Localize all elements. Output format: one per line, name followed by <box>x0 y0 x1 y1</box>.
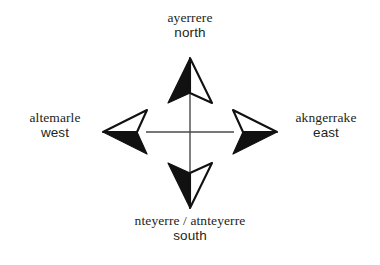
direction-label-west: altemarle west <box>6 110 104 140</box>
direction-label-north-gloss: north <box>0 25 380 40</box>
direction-label-west-language: altemarle <box>6 110 104 125</box>
direction-label-east: akngerrake east <box>276 110 376 140</box>
compass-arrow-west-solid-half <box>103 132 147 154</box>
direction-label-south: nteyerre / atnteyerre south <box>0 213 380 243</box>
compass-arrow-east-icon <box>233 110 277 154</box>
direction-label-west-gloss: west <box>6 125 104 140</box>
direction-label-north-language: ayerrere <box>0 10 380 25</box>
compass-arrow-north-solid-half <box>168 58 190 103</box>
compass-rose-figure: ayerrere north altemarle west akngerrake… <box>0 0 380 265</box>
compass-arrow-south-outline-half <box>190 163 212 208</box>
direction-label-north: ayerrere north <box>0 10 380 40</box>
direction-label-east-gloss: east <box>276 125 376 140</box>
compass-arrow-west-outline-half <box>103 110 147 132</box>
compass-arrow-south-solid-half <box>168 163 190 208</box>
direction-label-south-gloss: south <box>0 228 380 243</box>
crosshair-axes <box>146 88 234 176</box>
compass-arrow-east-solid-half <box>233 132 277 154</box>
compass-arrow-east-outline-half <box>233 110 277 132</box>
direction-label-south-language: nteyerre / atnteyerre <box>0 213 380 228</box>
compass-arrow-west-icon <box>103 110 147 154</box>
direction-label-east-language: akngerrake <box>276 110 376 125</box>
compass-arrow-north-outline-half <box>190 58 212 103</box>
